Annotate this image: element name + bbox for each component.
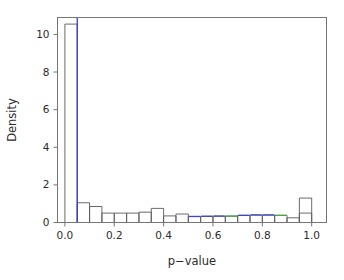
- axis-titles: p−valueDensity: [5, 98, 216, 268]
- x-tick-label: 1.0: [303, 229, 320, 241]
- histogram-bar: [102, 213, 114, 222]
- histogram-bar: [201, 216, 213, 222]
- y-tick-label: 6: [43, 103, 50, 115]
- y-tick-label: 0: [43, 216, 50, 228]
- histogram-bar: [176, 214, 188, 222]
- histogram-bar: [299, 213, 311, 222]
- histogram-bar: [238, 215, 250, 222]
- histogram-bar: [188, 216, 200, 222]
- histogram-bar: [151, 208, 163, 222]
- y-tick-label: 2: [43, 178, 50, 190]
- histogram-bar: [225, 216, 237, 222]
- y-tick-label: 10: [36, 28, 49, 40]
- histogram-bar: [275, 215, 287, 222]
- x-axis-title: p−value: [168, 254, 216, 268]
- y-axis: 0246810: [36, 28, 57, 228]
- histogram-bar: [250, 215, 262, 223]
- histogram-bar-last: [299, 198, 311, 222]
- plot-border: [58, 18, 327, 223]
- histogram-bars: [65, 24, 312, 222]
- histogram-bar: [139, 212, 151, 222]
- histogram-bar: [213, 216, 225, 222]
- histogram-bar: [127, 213, 139, 222]
- p-value-histogram-plot: 0.00.20.40.60.81.0 0246810 p−valueDensit…: [0, 0, 344, 280]
- x-tick-label: 0.0: [57, 229, 74, 241]
- y-tick-label: 4: [43, 141, 50, 153]
- histogram-bar: [65, 24, 77, 222]
- x-tick-label: 0.8: [254, 229, 271, 241]
- x-tick-label: 0.2: [106, 229, 123, 241]
- y-axis-title: Density: [5, 98, 19, 142]
- histogram-figure: 0.00.20.40.60.81.0 0246810 p−valueDensit…: [0, 0, 344, 280]
- histogram-bar: [114, 213, 126, 222]
- y-tick-label: 8: [43, 66, 50, 78]
- x-tick-label: 0.6: [205, 229, 222, 241]
- x-axis: 0.00.20.40.60.81.0: [57, 223, 320, 241]
- histogram-bar: [77, 203, 89, 223]
- histogram-bar: [164, 216, 176, 223]
- histogram-bar: [90, 207, 102, 223]
- histogram-bar: [262, 215, 274, 223]
- x-tick-label: 0.4: [155, 229, 172, 241]
- plot-frame: [58, 18, 327, 223]
- histogram-bar: [287, 218, 299, 223]
